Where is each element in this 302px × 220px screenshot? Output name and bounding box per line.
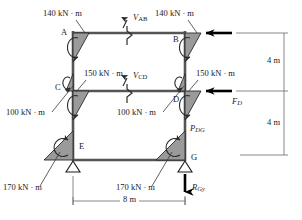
joint-label-g: G bbox=[191, 153, 197, 162]
dimension-lines bbox=[73, 33, 288, 205]
shear-ab-subscript: AB bbox=[138, 15, 147, 22]
force-label-pdg: PDG bbox=[190, 124, 205, 134]
joint-label-b: B bbox=[173, 35, 179, 44]
moment-label-d-lower: 100 kN · m bbox=[117, 108, 156, 117]
frame-diagram: 140 kN · m 140 kN · m 150 kN · m 150 kN … bbox=[0, 0, 302, 220]
dimension-label-span: 8 m bbox=[120, 195, 139, 204]
leader-moment-d-upper bbox=[188, 80, 198, 92]
shear-cd-subscript: CD bbox=[138, 73, 147, 80]
joint-label-e: E bbox=[79, 142, 84, 151]
force-label-fd: FD bbox=[232, 97, 242, 107]
moment-label-a-top: 140 kN · m bbox=[43, 9, 82, 18]
moment-label-c-lower: 100 kN · m bbox=[6, 108, 45, 117]
support-e bbox=[66, 161, 80, 172]
dimension-label-lower-story: 4 m bbox=[267, 118, 280, 127]
moment-label-e-base: 170 kN · m bbox=[3, 183, 42, 192]
moment-label-c-upper: 150 kN · m bbox=[84, 69, 123, 78]
force-label-shear-ab: VAB bbox=[133, 13, 147, 23]
moment-label-b-top: 140 kN · m bbox=[155, 9, 194, 18]
moment-label-d-upper: 150 kN · m bbox=[196, 69, 235, 78]
joint-label-a: A bbox=[61, 28, 67, 37]
force-label-rgy: RGy bbox=[192, 183, 205, 193]
pdg-subscript: DG bbox=[195, 126, 205, 133]
rgy-subscript: Gy bbox=[197, 185, 205, 192]
support-g bbox=[178, 161, 192, 172]
force-label-shear-cd: VCD bbox=[133, 71, 147, 81]
fd-subscript: D bbox=[237, 99, 242, 106]
joint-label-d: D bbox=[173, 95, 179, 104]
joint-label-c: C bbox=[55, 83, 61, 92]
leader-moment-b-top bbox=[188, 20, 197, 33]
dimension-label-upper-story: 4 m bbox=[267, 56, 280, 65]
leader-moment-a-top bbox=[76, 20, 85, 33]
moment-label-g-base: 170 kN · m bbox=[116, 183, 155, 192]
